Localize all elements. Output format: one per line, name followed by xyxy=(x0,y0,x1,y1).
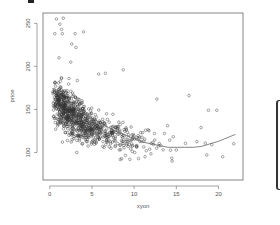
data-point xyxy=(144,155,147,158)
data-point xyxy=(98,109,101,112)
data-point xyxy=(118,121,121,124)
data-point xyxy=(75,46,78,49)
scatter-points xyxy=(52,17,236,163)
data-point xyxy=(155,147,158,150)
data-point xyxy=(207,109,210,112)
data-point xyxy=(57,82,60,85)
data-point xyxy=(188,94,191,97)
data-point xyxy=(216,109,219,112)
data-point xyxy=(70,61,73,64)
cropped-side-panel xyxy=(276,100,280,190)
data-point xyxy=(54,32,57,35)
data-point xyxy=(106,118,109,121)
data-point xyxy=(82,31,85,34)
data-point xyxy=(140,131,143,134)
svg-text:5: 5 xyxy=(90,191,94,197)
data-point xyxy=(62,17,65,20)
data-point xyxy=(122,121,125,124)
data-point xyxy=(58,57,61,60)
data-point xyxy=(144,129,147,132)
data-point xyxy=(137,157,140,160)
data-point xyxy=(204,142,207,145)
data-point xyxy=(94,113,97,116)
x-axis: 05101520 xyxy=(48,186,222,197)
data-point xyxy=(116,142,119,145)
data-point xyxy=(76,151,79,154)
data-point xyxy=(105,113,108,116)
data-point xyxy=(52,109,55,112)
data-point xyxy=(54,121,57,124)
scatter-plot: 05101520 100150200250 xyon price xyxy=(0,0,280,225)
svg-text:20: 20 xyxy=(215,191,222,197)
data-point xyxy=(169,149,172,152)
data-point xyxy=(175,149,178,152)
data-point xyxy=(69,126,72,129)
data-point xyxy=(81,100,84,103)
data-point xyxy=(122,69,125,72)
data-point xyxy=(101,118,104,121)
svg-text:100: 100 xyxy=(25,147,31,158)
data-point xyxy=(129,158,132,161)
x-axis-label: xyon xyxy=(137,203,150,209)
data-point xyxy=(68,77,71,80)
data-point xyxy=(76,139,79,142)
data-point xyxy=(196,140,199,143)
data-point xyxy=(108,121,111,124)
data-point xyxy=(90,143,93,146)
svg-text:15: 15 xyxy=(173,191,180,197)
svg-text:10: 10 xyxy=(131,191,138,197)
data-point xyxy=(130,126,133,129)
data-point xyxy=(70,43,73,46)
data-point xyxy=(67,83,70,86)
data-point xyxy=(54,128,57,131)
data-point xyxy=(66,139,69,142)
data-point xyxy=(171,160,174,163)
data-point xyxy=(206,154,209,157)
data-point xyxy=(172,136,175,139)
data-point xyxy=(184,142,187,145)
data-point xyxy=(97,73,100,76)
data-point xyxy=(54,85,57,88)
data-point xyxy=(87,108,90,111)
data-point xyxy=(62,128,65,131)
data-point xyxy=(108,145,111,148)
y-axis: 100150200250 xyxy=(25,18,37,158)
data-point xyxy=(55,18,58,21)
data-point xyxy=(129,148,132,151)
data-point xyxy=(200,126,203,129)
data-point xyxy=(153,132,156,135)
data-point xyxy=(59,23,62,26)
data-point xyxy=(87,145,90,148)
data-point xyxy=(74,32,77,35)
svg-text:150: 150 xyxy=(25,104,31,115)
data-point xyxy=(166,124,169,127)
data-point xyxy=(112,113,115,116)
data-point xyxy=(119,123,122,126)
data-point xyxy=(148,148,151,151)
data-point xyxy=(156,98,159,101)
data-point xyxy=(61,141,64,144)
data-point xyxy=(232,143,235,146)
data-point xyxy=(61,32,64,35)
data-point xyxy=(106,128,109,131)
data-point xyxy=(221,156,224,159)
data-point xyxy=(162,149,165,152)
data-point xyxy=(56,113,59,116)
y-axis-label: price xyxy=(9,89,15,103)
data-point xyxy=(59,86,62,89)
data-point xyxy=(154,139,157,142)
data-point xyxy=(163,132,166,135)
data-point xyxy=(110,147,113,150)
data-point xyxy=(171,157,174,160)
data-point xyxy=(124,154,127,157)
svg-text:250: 250 xyxy=(25,18,31,29)
svg-text:200: 200 xyxy=(25,61,31,72)
data-point xyxy=(60,28,63,31)
data-point xyxy=(76,79,79,82)
data-point xyxy=(104,72,107,75)
data-point xyxy=(143,146,146,149)
svg-text:0: 0 xyxy=(48,191,52,197)
data-point xyxy=(102,140,105,143)
data-point xyxy=(150,153,153,156)
data-point xyxy=(145,149,148,152)
